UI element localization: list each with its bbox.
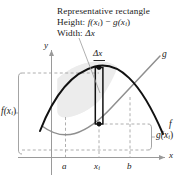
x-tick-label-xi: xi [94,161,100,172]
g-of-xi-close: ) [170,130,173,140]
callout-width-prefix: Width: [57,28,85,38]
x-axis-arrowhead [159,155,165,160]
callout-line-representative-rectangle: Representative rectangle [57,6,150,17]
point-on-curve-g [97,122,102,127]
callout-height-f-open: (x [90,17,97,27]
y-axis-label: y [44,40,48,51]
x-axis-label: x [169,150,173,161]
f-of-xi-label: f(xi) [1,106,16,117]
point-on-curve-f [97,65,102,70]
curve-g-label: g [162,49,167,60]
callout-height-prefix: Height: [57,17,88,27]
callout-height-g-open: (x [118,17,125,27]
y-axis-arrowhead [49,50,54,56]
x-tick-label-b: b [127,161,132,172]
callout-line-height: Height: f(xi) − g(xi) [57,17,150,28]
callout-width-delta: Δx [85,28,95,38]
x-tick-label-a: a [62,161,67,172]
delta-x-label: Δx [93,48,102,59]
area-between-curves-figure: Representative rectangle Height: f(xi) −… [0,0,184,186]
callout-line-width: Width: Δx [57,28,150,39]
x-tick-xi-sub: i [98,164,100,171]
f-of-xi-close: ) [13,106,16,116]
callout-height-minus: − [103,17,113,27]
callout-height-g-close: ) [127,17,130,27]
g-value-bracket [148,124,152,150]
f-value-bracket [19,73,23,154]
curve-f-label: f [169,119,172,130]
f-of-xi-open: (x [4,106,11,116]
callout-text-block: Representative rectangle Height: f(xi) −… [57,6,150,39]
g-of-xi-label: g(xi) [156,130,173,141]
